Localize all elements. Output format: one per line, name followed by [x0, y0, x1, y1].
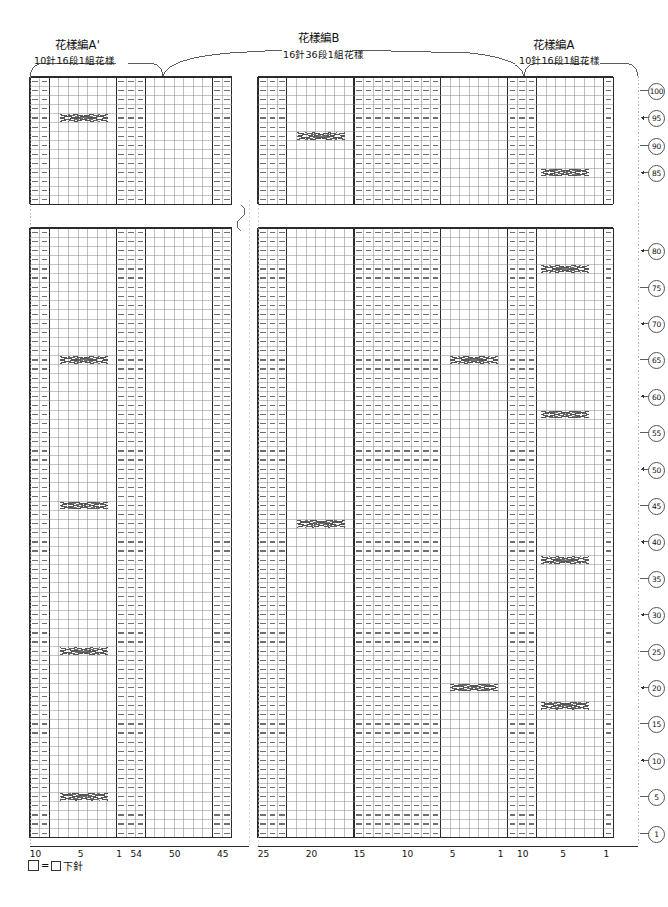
section-title-pattern-a: 花樣編A: [533, 40, 575, 52]
legend: = 下針: [28, 858, 83, 873]
axis-stitch-label-54: 54: [131, 849, 142, 859]
axis-stitch-label-15: 15: [354, 849, 365, 859]
row-number-1: 1: [648, 826, 665, 843]
row-number-35: 35: [648, 571, 665, 588]
row-number-85: 85: [648, 165, 665, 182]
axis-stitch-label-10: 10: [517, 849, 528, 859]
row-number-60: 60: [648, 389, 665, 406]
axis-stitch-label-20: 20: [306, 849, 317, 859]
row-number-70: 70: [648, 316, 665, 333]
axis-stitch-label-45: 45: [217, 849, 228, 859]
axis-stitch-label-5: 5: [560, 849, 566, 859]
chart-canvas: 花樣編A' 10針16段1組花樣 花樣編B 16針36段1組花樣 花樣編A 10…: [0, 0, 668, 907]
axis-stitch-label-5: 5: [450, 849, 456, 859]
section-subtitle-pattern-a-prime: 10針16段1組花樣: [34, 56, 115, 66]
section-subtitle-pattern-a: 10針16段1組花樣: [519, 56, 600, 66]
legend-text: 下針: [63, 858, 83, 873]
axis-stitch-label-1: 1: [603, 849, 609, 859]
legend-empty-box-icon: [28, 860, 39, 871]
section-subtitle-pattern-b: 16針36段1組花樣: [283, 50, 364, 60]
axis-stitch-label-10: 10: [30, 849, 41, 859]
axis-stitch-label-1: 1: [498, 849, 504, 859]
axis-stitch-label-1: 1: [116, 849, 122, 859]
row-number-50: 50: [648, 462, 665, 479]
axis-stitch-label-10: 10: [402, 849, 413, 859]
axis-stitch-label-25: 25: [258, 849, 269, 859]
legend-knit-box-icon: [51, 861, 61, 871]
section-title-pattern-b: 花樣編B: [298, 33, 340, 45]
stitch-chart-graphic: [0, 0, 668, 907]
legend-equals: =: [41, 860, 49, 871]
row-number-25: 25: [648, 644, 665, 661]
row-number-75: 75: [648, 280, 665, 297]
section-title-pattern-a-prime: 花樣編A': [55, 40, 100, 52]
row-number-100: 100: [648, 83, 665, 100]
row-number-10: 10: [648, 753, 665, 770]
row-number-20: 20: [648, 680, 665, 697]
row-number-45: 45: [648, 498, 665, 515]
axis-stitch-label-50: 50: [169, 849, 180, 859]
row-number-90: 90: [648, 138, 665, 155]
axis-stitch-label-5: 5: [78, 849, 84, 859]
